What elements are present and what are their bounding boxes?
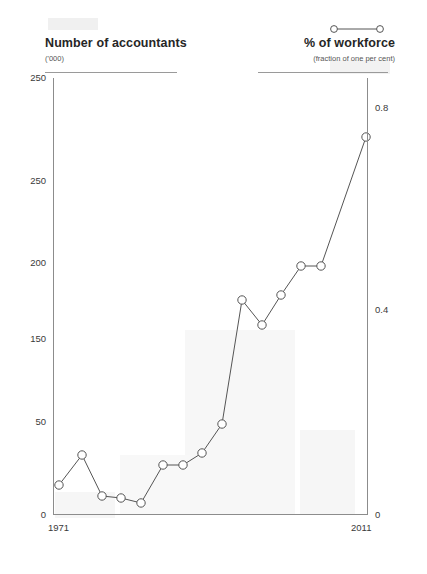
right-axis-subtitle: (fraction of one per cent) [313, 54, 395, 63]
right-axis-line [367, 78, 368, 515]
x-axis-label-start: 1971 [48, 522, 69, 533]
right-tick-label: 0 [375, 509, 380, 520]
data-series-line [53, 78, 368, 515]
left-tick-label: 50 [35, 416, 46, 427]
plot-area: 250250200150500 0.80.40 [53, 78, 368, 515]
data-point-marker [198, 449, 206, 457]
header-rule-right [258, 72, 388, 73]
data-point-marker [238, 296, 246, 304]
series-polyline [59, 137, 366, 503]
data-point-marker [55, 481, 63, 489]
left-tick-label: 250 [30, 72, 46, 83]
chart-figure: Number of accountants ('000) % of workfo… [0, 0, 427, 574]
scan-smudge [48, 18, 98, 30]
left-axis-title: Number of accountants [45, 36, 187, 50]
data-point-marker [277, 291, 285, 299]
legend-marker-icon [329, 24, 385, 34]
data-point-marker [98, 492, 106, 500]
data-point-marker [117, 494, 125, 502]
data-point-marker [258, 321, 266, 329]
left-axis-line [53, 78, 54, 515]
data-point-marker [317, 262, 325, 270]
left-tick-label: 250 [30, 175, 46, 186]
data-point-marker [179, 461, 187, 469]
data-point-marker [218, 420, 226, 428]
left-tick-label: 200 [30, 257, 46, 268]
left-tick-label: 0 [41, 509, 46, 520]
left-axis-subtitle: ('000) [45, 54, 64, 63]
data-point-marker [137, 499, 145, 507]
x-axis-label-end: 2011 [351, 522, 371, 533]
data-point-marker [78, 451, 86, 459]
data-point-marker [297, 262, 305, 270]
left-tick-label: 150 [30, 333, 46, 344]
data-point-marker [159, 461, 167, 469]
right-tick-label: 0.4 [375, 304, 388, 315]
right-axis-title: % of workforce [304, 36, 395, 50]
right-tick-label: 0.8 [375, 102, 388, 113]
header-rule-left [45, 72, 177, 73]
bottom-axis-line [53, 514, 368, 515]
